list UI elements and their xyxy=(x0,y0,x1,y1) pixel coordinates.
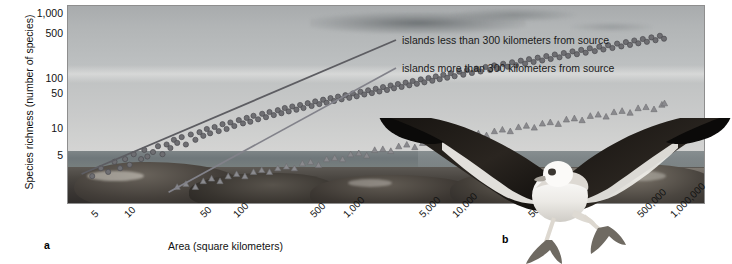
panel-label-a: a xyxy=(44,239,50,251)
x-axis-title: Area (square kilometers) xyxy=(168,240,283,252)
x-tick-500: 500 xyxy=(308,200,328,220)
x-tick-5: 5 xyxy=(89,208,101,220)
x-tick-50: 50 xyxy=(198,204,214,220)
bird-leg-right xyxy=(584,216,600,230)
bird-leg-left xyxy=(546,218,554,242)
x-tick-10: 10 xyxy=(122,204,138,220)
bird-foot-left xyxy=(526,240,562,264)
bird-eye xyxy=(548,169,556,176)
x-tick-1000: 1,000 xyxy=(341,194,366,219)
albatross-in-flight xyxy=(378,118,732,264)
x-tick-100: 100 xyxy=(231,200,251,220)
bird-head xyxy=(543,161,573,187)
figure-root: Species richness (number of species) 1,0… xyxy=(0,0,732,264)
bird-foot-right xyxy=(591,226,626,254)
